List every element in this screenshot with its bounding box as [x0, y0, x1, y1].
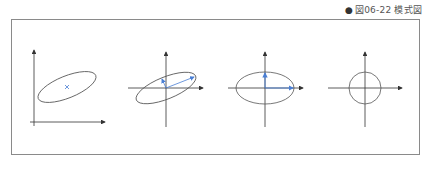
panel-rotated [228, 52, 303, 127]
panel-original-data [30, 50, 105, 126]
diagram-canvas [0, 0, 434, 169]
panel-centered-eigenvectors [128, 52, 203, 127]
panel-whitened [328, 52, 402, 127]
principal-vector-2-icon [162, 79, 166, 88]
mean-cross-icon [65, 85, 69, 89]
